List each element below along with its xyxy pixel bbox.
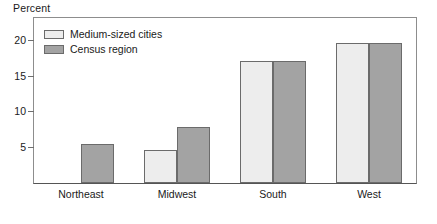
y-axis-tick-label: 20	[2, 35, 26, 46]
y-axis-tick-label: 15	[2, 71, 26, 82]
bar-chart: Percent 5101520 Medium-sized cities Cens…	[0, 0, 437, 224]
bar	[369, 43, 402, 183]
bar	[336, 43, 369, 183]
y-axis-tick-label: 10	[2, 106, 26, 117]
bar	[81, 144, 114, 183]
bar	[273, 61, 306, 183]
bar	[144, 150, 177, 183]
bar-group	[144, 17, 210, 183]
bar-group	[336, 17, 402, 183]
x-axis-label: South	[225, 188, 321, 200]
bar-group	[240, 17, 306, 183]
x-axis-labels: NortheastMidwestSouthWest	[33, 188, 417, 208]
bar	[240, 61, 273, 183]
x-axis-label: West	[321, 188, 417, 200]
bar-group	[48, 17, 114, 183]
bars-layer	[33, 17, 417, 184]
bar	[177, 127, 210, 183]
y-axis-labels: 5101520	[0, 0, 26, 224]
y-axis-tick-label: 5	[2, 142, 26, 153]
x-axis-label: Midwest	[129, 188, 225, 200]
x-axis-label: Northeast	[33, 188, 129, 200]
